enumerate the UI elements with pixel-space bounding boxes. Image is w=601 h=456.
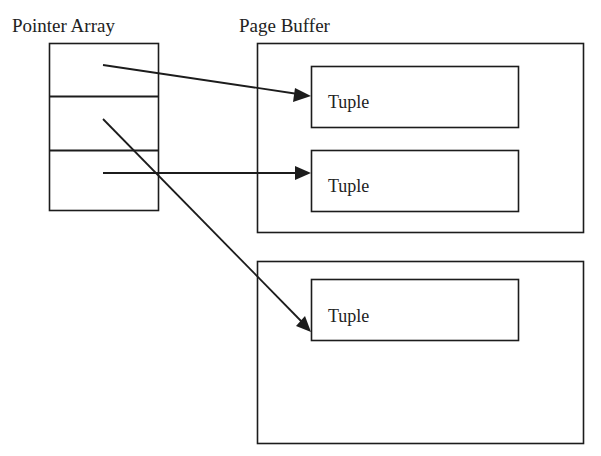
arrowhead-icon	[295, 166, 311, 180]
pointer-arrow-2	[103, 119, 311, 332]
pointer-array-diagram: Pointer Array Page Buffer Tuple Tuple Tu…	[0, 0, 601, 456]
page-buffer-label: Page Buffer	[239, 15, 331, 36]
tuple-label: Tuple	[328, 92, 369, 112]
pointer-array-label: Pointer Array	[12, 15, 115, 36]
tuple-box: Tuple	[312, 151, 519, 212]
page-buffer-1: Tuple Tuple	[258, 44, 584, 233]
tuple-box: Tuple	[312, 280, 519, 341]
tuple-box: Tuple	[312, 67, 519, 128]
page-buffer-2: Tuple	[258, 262, 584, 444]
tuple-label: Tuple	[328, 306, 369, 326]
pointer-slot-2	[50, 97, 158, 150]
pointer-array	[50, 44, 159, 211]
arrowhead-icon	[293, 88, 311, 102]
page-buffer-box	[258, 44, 584, 233]
page-buffer-box	[258, 262, 584, 444]
arrow-line	[103, 119, 302, 322]
tuple-label: Tuple	[328, 176, 369, 196]
